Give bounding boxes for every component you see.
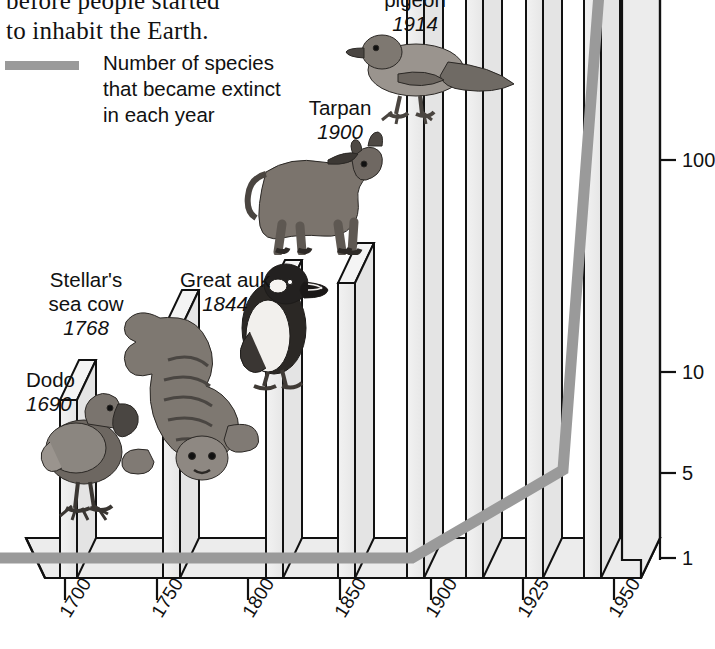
annotation-passenger-pigeon-year: 1914	[360, 12, 470, 36]
y-axis-label-10: 10	[682, 362, 704, 382]
legend-label: Number of species that became extinct in…	[103, 50, 318, 128]
y-axis-label-1: 1	[682, 548, 693, 568]
annotation-tarpan-year: 1900	[290, 120, 390, 144]
annotation-great-auk-name: Great auk	[160, 268, 290, 292]
annotation-sea-cow-year: 1768	[26, 316, 146, 340]
y-axis-label-5: 5	[682, 463, 693, 483]
annotation-tarpan-name: Tarpan	[290, 96, 390, 120]
annotation-sea-cow: Stellar's sea cow 1768	[26, 268, 146, 340]
annotation-dodo-name: Dodo	[26, 368, 75, 392]
legend-color-swatch	[5, 61, 79, 70]
bar-1875	[338, 243, 374, 578]
annotation-tarpan: Tarpan 1900	[290, 96, 390, 144]
annotation-passenger-pigeon: pigeon 1914	[360, 0, 470, 36]
annotation-passenger-pigeon-name: pigeon	[360, 0, 470, 12]
y-axis-label-100: 100	[682, 150, 715, 170]
annotation-great-auk-year: 1844	[160, 292, 290, 316]
y-axis-ticks	[660, 0, 676, 560]
annotation-sea-cow-name: Stellar's sea cow	[26, 268, 146, 316]
annotation-dodo-year: 1690	[26, 392, 75, 416]
y-axis-wall	[622, 0, 660, 578]
annotation-great-auk: Great auk 1844	[160, 268, 290, 316]
intro-text: before people started to inhabit the Ear…	[6, 0, 306, 46]
annotation-dodo: Dodo 1690	[26, 368, 75, 416]
